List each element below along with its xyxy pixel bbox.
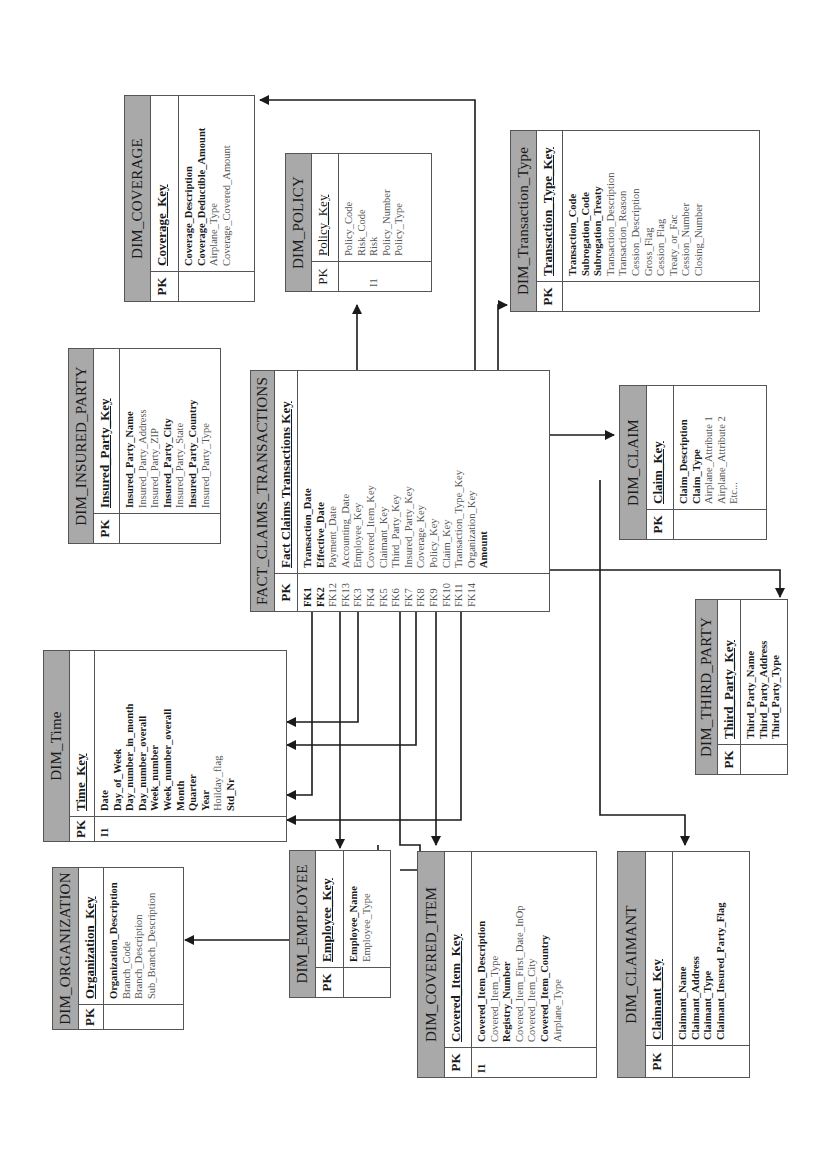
attribute: Airplane_Attribute 1: [703, 416, 716, 504]
pk-label: PK: [537, 281, 562, 311]
attribute: Airplane_Attribute 2: [716, 416, 729, 504]
attribute: Airplane_Type: [552, 906, 565, 1042]
index-column: [741, 744, 787, 774]
dim-employee-table: DIM_EMPLOYEE PK Employee_Key Employee_Na…: [289, 850, 391, 998]
pk-label: PK: [718, 744, 740, 774]
attribute: Insured_Party_Type: [200, 400, 213, 508]
table-title: DIM_CLAIMANT: [618, 852, 646, 1077]
attribute: Transaction_Reason: [617, 173, 630, 276]
attribute: Payment_Date: [327, 470, 340, 568]
attribute: Year: [200, 704, 213, 811]
attribute: Coverage_Deductible_Amount: [196, 128, 209, 266]
table-title: DIM_POLICY: [286, 154, 312, 291]
index-column: [563, 281, 759, 311]
attribute: Subrogation_Treaty: [592, 173, 605, 276]
dim-policy-anchor: DIM_POLICY PK Policy_Key I1 Policy_Code …: [285, 153, 432, 292]
table-title: DIM_EMPLOYEE: [290, 851, 316, 997]
attribute: Transaction_Type_Key: [453, 470, 466, 568]
dim-claimant-anchor: DIM_CLAIMANT PK Claimant_Key Claimant_Na…: [617, 851, 750, 1078]
attribute: Claimant_Address: [690, 903, 703, 1040]
attribute: Claimant_Insured_Party_Flag: [715, 903, 728, 1040]
dim-third-party-table: DIM_THIRD_PARTY PK Third_Party_Key Third…: [695, 599, 788, 775]
pk-label: PK: [70, 816, 94, 841]
fk-label: FK13: [340, 574, 353, 611]
pk-label: PK: [151, 271, 178, 301]
primary-key: Time_Key: [70, 748, 94, 816]
attribute-list: Third_Party_Name Third_Party_Address Thi…: [741, 636, 787, 744]
attribute: Etc...: [728, 416, 741, 504]
attribute: Date: [99, 704, 112, 811]
dim-transaction-type-table: DIM_Transaction_Type PK Transaction_Type…: [510, 130, 760, 312]
attribute-list: Claimant_Name Claimant_Address Claimant_…: [673, 898, 749, 1045]
attribute: Covered_Item_Country: [539, 906, 552, 1042]
attribute: Claimant_Name: [677, 903, 690, 1040]
attribute-list: Covered_Item_Description Covered_Item_Ty…: [472, 901, 596, 1047]
table-title: DIM_INSURED_PARTY: [69, 349, 94, 543]
attribute: Third_Party_Key: [390, 470, 403, 568]
fk-label: FK6: [390, 574, 403, 611]
fk-column: FK1 FK2 FK12 FK13 FK3 FK4 FK5 FK6 FK7 FK…: [298, 573, 549, 611]
index-column: [104, 1004, 183, 1029]
index-label: [356, 262, 369, 291]
attribute: Employee_Key: [352, 470, 365, 568]
pk-label: PK: [94, 513, 119, 543]
index-column: I1: [95, 816, 286, 841]
attribute: Insured_Party_Name: [124, 400, 137, 508]
attribute: Week_number: [149, 704, 162, 811]
attribute: Transaction_Date: [302, 470, 315, 568]
dim-time-anchor: DIM_Time PK Time_Key I1 Date Day_of_Week…: [43, 650, 287, 842]
attribute: Claim_Key: [441, 470, 454, 568]
attribute: Covered_Item_Description: [476, 906, 489, 1042]
attribute-list: Coverage_Description Coverage_Deductible…: [179, 123, 254, 271]
table-title: DIM_ORGANIZATION: [53, 868, 79, 1029]
link-time-2: [287, 612, 358, 722]
attribute: Day_of_Week: [112, 704, 125, 811]
attribute: Risk: [368, 190, 381, 257]
attribute: Sub_Branch_Description: [146, 882, 159, 999]
fact-claims-transactions-table: FACT_CLAIMS_TRANSACTIONS PK Fact Claims …: [250, 370, 550, 612]
attribute: Day_number_in_month: [124, 704, 137, 811]
fact-claims-transactions-anchor: FACT_CLAIMS_TRANSACTIONS PK Fact Claims …: [250, 370, 550, 612]
table-title: DIM_COVERAGE: [125, 96, 151, 301]
dim-covered-item-table: DIM_COVERED_ITEM PK Covered_Item_Key I1 …: [417, 851, 597, 1078]
attribute: Covered_Item_Key: [365, 470, 378, 568]
attribute: Risk_Code: [356, 190, 369, 257]
table-title: DIM_THIRD_PARTY: [696, 600, 718, 774]
dim-third-party-anchor: DIM_THIRD_PARTY PK Third_Party_Key Third…: [695, 599, 788, 775]
primary-key: Claim_Key: [647, 436, 673, 509]
index-column: [673, 1045, 749, 1077]
dim-claim-table: DIM_CLAIM PK Claim_Key Claim_Description…: [619, 385, 767, 540]
attribute: Covered_Item_First_Date_InOp: [514, 906, 527, 1042]
index-column: [179, 271, 254, 301]
link-time-3: [287, 612, 416, 745]
attribute: Coverage_Covered_Amount: [221, 128, 234, 266]
dim-claim-anchor: DIM_CLAIM PK Claim_Key Claim_Description…: [619, 385, 767, 540]
attribute-list: Claim_Description Claim_Type Airplane_At…: [674, 411, 766, 509]
pk-label: PK: [79, 1004, 103, 1029]
attribute: Third_Party_Name: [745, 641, 758, 739]
pk-label: PK: [647, 509, 673, 539]
dim-covered-item-anchor: DIM_COVERED_ITEM PK Covered_Item_Key I1 …: [417, 851, 597, 1078]
dim-insured-party-anchor: DIM_INSURED_PARTY PK Insured_Party_Key I…: [68, 348, 221, 544]
index-label: I1: [476, 1048, 489, 1077]
link-time-1: [287, 612, 312, 795]
attribute: Insured_Party_Key: [403, 470, 416, 568]
primary-key: Coverage_Key: [151, 179, 178, 271]
table-title: FACT_CLAIMS_TRANSACTIONS: [251, 371, 275, 611]
dim-organization-table: DIM_ORGANIZATION PK Organization_Key Org…: [52, 867, 184, 1030]
primary-key: Third_Party_Key: [718, 635, 740, 744]
attribute: Branch_Description: [133, 882, 146, 999]
fk-label: FK3: [352, 574, 365, 611]
primary-key: Insured_Party_Key: [94, 393, 119, 513]
attribute-list: Transaction_Code Subrogation_Code Subrog…: [563, 168, 759, 281]
attribute: Treaty_or_Fac: [668, 173, 681, 276]
index-label: I1: [368, 262, 381, 291]
attribute: Covered_Item_Type: [489, 906, 502, 1042]
index-label: I1: [99, 817, 112, 841]
fk-label: FK11: [453, 574, 466, 611]
attribute: Hoilday_flag: [212, 704, 225, 811]
primary-key: Organization_Key: [79, 891, 103, 1004]
attribute: Policy_Code: [343, 190, 356, 257]
fk-label: FK14: [466, 574, 479, 611]
attribute: Claim_Type: [691, 416, 704, 504]
